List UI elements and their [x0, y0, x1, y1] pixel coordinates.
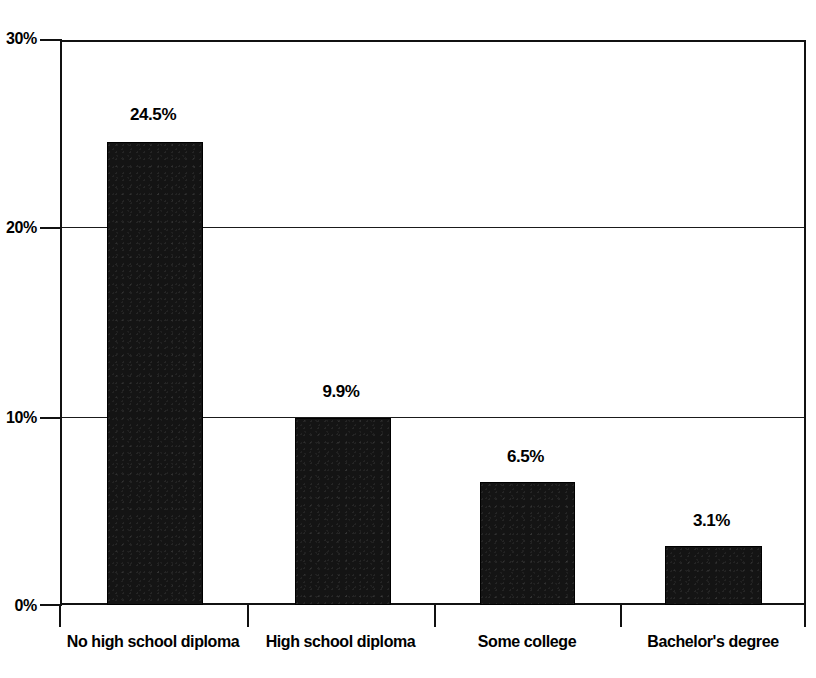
y-axis-tick-label-0: 0%	[14, 598, 37, 614]
x-axis-tick-mark-3	[620, 605, 622, 627]
x-axis-label-some-college: Some college	[434, 634, 620, 650]
bar-value-label-no-high-school-diploma: 24.5%	[105, 106, 201, 123]
bar-value-label-some-college: 6.5%	[478, 448, 573, 465]
x-axis-tick-mark-0	[59, 605, 61, 627]
bar-some-college	[480, 482, 575, 605]
x-axis-label-no-high-school-diploma: No high school diploma	[59, 634, 247, 650]
y-axis-tick-mark-20	[40, 227, 62, 229]
x-axis-tick-mark-4	[804, 605, 806, 627]
x-axis-label-high-school-diploma: High school diploma	[247, 634, 434, 650]
bar-bachelors-degree	[665, 546, 762, 605]
bar-value-label-high-school-diploma: 9.9%	[293, 383, 389, 400]
x-axis-tick-mark-2	[434, 605, 436, 627]
y-axis-tick-label-20: 20%	[6, 220, 37, 236]
bar-chart: 30% 20% 10% 0% 24.5% 9.9% 6.5% 3.1% No h…	[0, 0, 816, 678]
y-axis-tick-label-10: 10%	[6, 410, 37, 426]
x-axis-tick-mark-1	[247, 605, 249, 627]
y-axis-tick-label-30: 30%	[6, 31, 37, 47]
y-axis-tick-mark-30	[40, 39, 62, 41]
bar-value-label-bachelors-degree: 3.1%	[663, 512, 760, 529]
bar-no-high-school-diploma	[107, 142, 203, 605]
y-axis-tick-mark-10	[40, 417, 62, 419]
x-axis-label-bachelors-degree: Bachelor's degree	[620, 634, 806, 650]
bar-high-school-diploma	[295, 418, 391, 605]
